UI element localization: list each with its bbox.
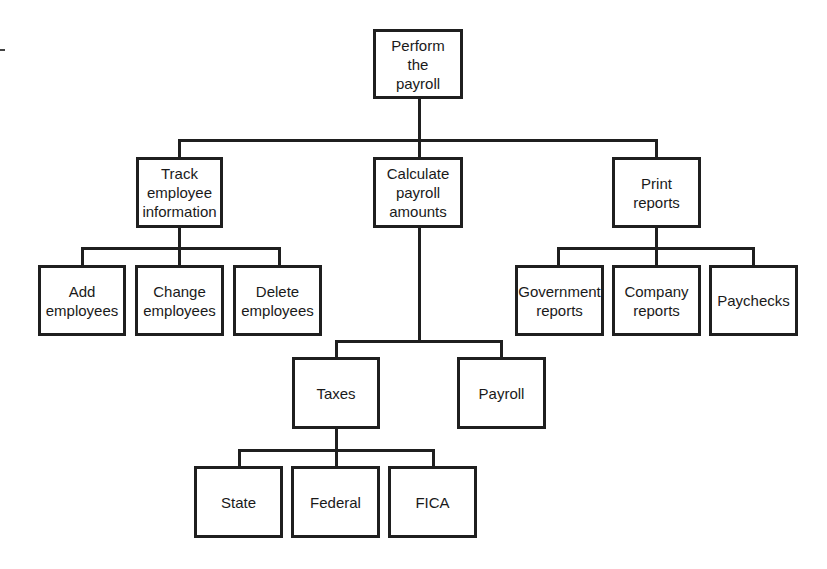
node-federal: Federal xyxy=(291,466,380,538)
connector-to-company xyxy=(655,247,658,267)
connector-to-paychecks xyxy=(752,247,755,267)
node-print-reports: Print reports xyxy=(612,157,701,228)
node-fica: FICA xyxy=(388,466,477,538)
margin-mark xyxy=(0,49,5,51)
connector-to-calculate xyxy=(418,139,421,159)
connector-to-government xyxy=(557,247,560,267)
connector-to-delete xyxy=(278,247,281,267)
node-government-reports: Government reports xyxy=(515,265,604,336)
node-add-employees: Add employees xyxy=(38,265,126,336)
node-state: State xyxy=(194,466,283,538)
connector-calculate-bar xyxy=(335,340,503,343)
node-track-employee-information: Track employee information xyxy=(136,157,223,228)
connector-track-down xyxy=(178,227,181,249)
node-taxes: Taxes xyxy=(292,357,380,429)
node-change-employees: Change employees xyxy=(135,265,224,336)
node-company-reports: Company reports xyxy=(612,265,701,336)
connector-print-down xyxy=(655,227,658,249)
node-delete-employees: Delete employees xyxy=(233,265,322,336)
connector-to-track xyxy=(178,139,181,159)
connector-track-bar xyxy=(81,247,281,250)
node-paychecks: Paychecks xyxy=(709,265,798,336)
connector-taxes-down xyxy=(335,427,338,451)
payroll-hierarchy-diagram: Perform the payroll Track employee infor… xyxy=(0,0,827,569)
connector-root-down xyxy=(418,97,421,141)
connector-to-change xyxy=(178,247,181,267)
connector-to-print xyxy=(655,139,658,159)
node-payroll: Payroll xyxy=(457,357,546,429)
node-perform-payroll: Perform the payroll xyxy=(373,29,463,99)
connector-calculate-down xyxy=(418,227,421,342)
node-calculate-payroll-amounts: Calculate payroll amounts xyxy=(373,157,463,228)
connector-to-add xyxy=(81,247,84,267)
